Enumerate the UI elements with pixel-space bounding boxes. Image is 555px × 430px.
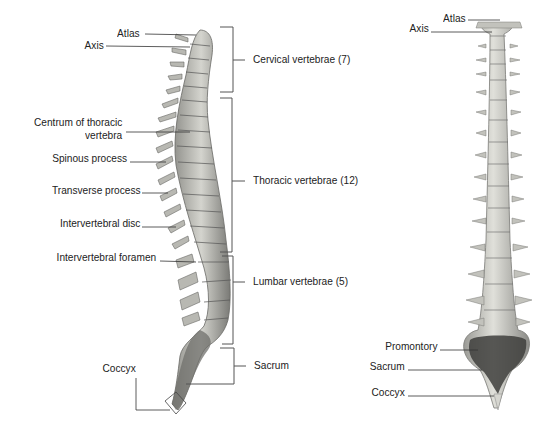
label-atlas-lateral: Atlas <box>117 27 140 40</box>
label-promontory: Promontory <box>385 340 437 353</box>
label-atlas-anterior: Atlas <box>443 12 466 25</box>
label-axis-anterior: Axis <box>410 22 429 35</box>
label-spinous-process: Spinous process <box>52 152 127 165</box>
label-centrum-line2: vertebra <box>85 129 122 142</box>
label-centrum-line1: Centrum of thoracic <box>34 116 122 129</box>
label-axis-lateral: Axis <box>85 39 104 52</box>
lateral-spine <box>156 30 231 410</box>
label-sacrum-lateral: Sacrum <box>254 359 289 372</box>
label-coccyx-lateral: Coccyx <box>103 362 136 375</box>
label-cervical-vertebrae: Cervical vertebrae (7) <box>253 53 350 66</box>
label-intervertebral-foramen: Intervertebral foramen <box>56 251 156 264</box>
label-transverse-process: Transverse process <box>53 184 141 197</box>
label-sacrum-anterior: Sacrum <box>370 360 405 373</box>
label-intervertebral-disc: Intervertebral disc <box>60 217 140 230</box>
label-thoracic-vertebrae: Thoracic vertebrae (12) <box>253 174 358 187</box>
label-coccyx-anterior: Coccyx <box>372 386 405 399</box>
anterior-spine <box>464 22 532 410</box>
label-lumbar-vertebrae: Lumbar vertebrae (5) <box>253 275 348 288</box>
